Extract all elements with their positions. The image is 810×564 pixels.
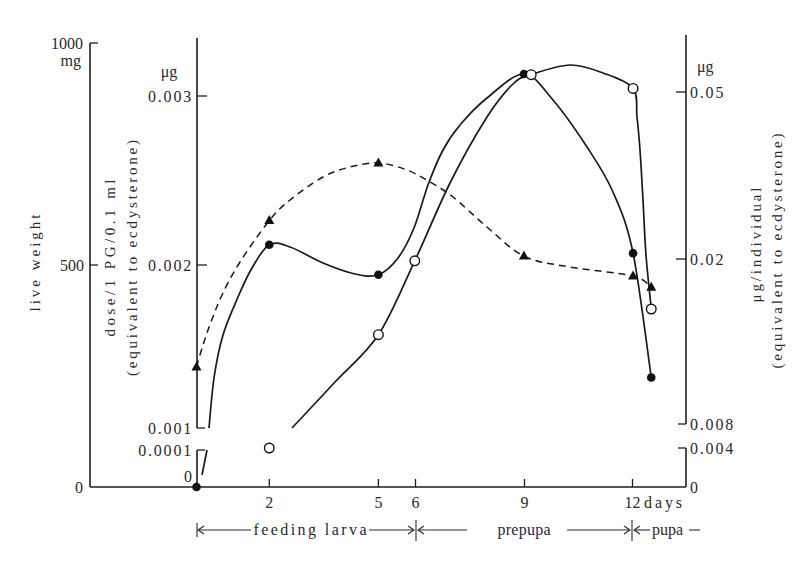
titer-axis: μg 0.05 0.02 0.008 0.004 0 μg/individual… xyxy=(676,35,786,496)
phase-label-pupa: pupa xyxy=(652,521,683,539)
filled-circle-marker-icon xyxy=(265,240,274,249)
phase-label-prepupa: prepupa xyxy=(498,521,551,539)
days-axis-unit: days xyxy=(644,494,682,512)
phase-bar: feeding larva prepupa pupa xyxy=(197,520,700,541)
phase-label-feeding-larva: feeding larva xyxy=(254,521,367,539)
titer-tick-0.008: 0.008 xyxy=(690,416,735,433)
live-weight-tick-1000: 1000 xyxy=(51,35,83,52)
dose-tick-0.001: 0.001 xyxy=(148,420,193,437)
dose-tick-0.0001: 0.0001 xyxy=(138,442,193,459)
days-axis: 2 5 6 9 12 days xyxy=(90,479,686,512)
open-circle-marker-icon xyxy=(646,304,656,314)
triangle-marker-icon xyxy=(373,157,383,166)
filled-circle-marker-icon xyxy=(192,483,201,492)
titer-axis-subtitle: (equivalent to ecdysterone) xyxy=(769,134,786,369)
open-circle-marker-icon xyxy=(410,256,420,266)
series-curve xyxy=(292,65,651,428)
titer-axis-unit: μg xyxy=(697,58,714,76)
titer-axis-title: μg/individual xyxy=(748,188,764,303)
series-curve xyxy=(209,74,651,428)
titer-tick-0: 0 xyxy=(690,479,698,496)
dose-tick-0: 0 xyxy=(184,468,192,485)
live-weight-tick-500: 500 xyxy=(60,257,84,274)
titer-tick-0.02: 0.02 xyxy=(690,251,725,268)
titer-tick-0.004: 0.004 xyxy=(690,440,735,457)
open-circle-marker-icon xyxy=(264,443,274,453)
open-circle-marker-icon xyxy=(628,84,638,94)
dose-axis: μg 0.003 0.002 0.001 0.0001 0 dose/1 PG/… xyxy=(102,38,207,487)
live-weight-axis-title: live weight xyxy=(27,214,43,312)
series-curve xyxy=(202,450,207,475)
dose-tick-0.003: 0.003 xyxy=(148,88,193,105)
days-tick-9: 9 xyxy=(521,494,529,511)
ecdysteroid-chart: 1000 mg 500 0 live weight μg 0.003 0.002… xyxy=(0,0,810,564)
days-tick-6: 6 xyxy=(412,494,420,511)
days-tick-5: 5 xyxy=(374,494,382,511)
dose-axis-title: dose/1 PG/0.1 ml xyxy=(102,180,118,337)
triangle-marker-icon xyxy=(192,362,202,371)
open-circle-marker-icon xyxy=(374,330,384,340)
live-weight-axis: 1000 mg 500 0 live weight xyxy=(27,35,98,496)
live-weight-unit: mg xyxy=(61,52,81,70)
days-tick-2: 2 xyxy=(265,494,273,511)
triangle-marker-icon xyxy=(519,251,529,260)
series-curve xyxy=(197,163,652,367)
dose-axis-subtitle: (equivalent to ecdysterone) xyxy=(124,140,141,376)
live-weight-tick-0: 0 xyxy=(75,479,83,496)
series-markers xyxy=(192,70,657,492)
filled-circle-marker-icon xyxy=(647,373,656,382)
open-circle-marker-icon xyxy=(526,70,536,80)
dose-tick-0.002: 0.002 xyxy=(148,257,193,274)
titer-tick-0.05: 0.05 xyxy=(690,84,725,101)
filled-circle-marker-icon xyxy=(374,270,383,279)
days-tick-12: 12 xyxy=(625,494,641,511)
series-curves xyxy=(197,65,652,475)
chart-canvas: 1000 mg 500 0 live weight μg 0.003 0.002… xyxy=(0,0,810,564)
dose-axis-unit: μg xyxy=(161,63,178,81)
filled-circle-marker-icon xyxy=(629,249,638,258)
